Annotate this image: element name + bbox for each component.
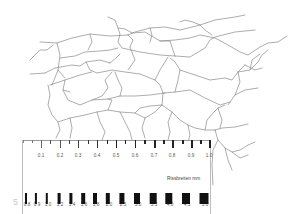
scale-label: 0.2 bbox=[57, 153, 63, 158]
tick-0.70 bbox=[154, 140, 156, 148]
crack-width-bar-1.8 bbox=[93, 193, 97, 204]
crack-width-bar-1.4 bbox=[69, 193, 72, 204]
scale-label: 0.7 bbox=[151, 153, 157, 158]
tick-0.90 bbox=[191, 140, 193, 148]
tick-0.05 bbox=[32, 140, 33, 143]
crack-width-bar-0.8 bbox=[25, 193, 27, 204]
tick-0.55 bbox=[125, 140, 126, 144]
tick-1.00 bbox=[209, 140, 211, 148]
scale-label: 0.1 bbox=[38, 153, 44, 158]
tick-0.15 bbox=[50, 140, 51, 144]
crack-width-bar-5.0 bbox=[200, 193, 209, 204]
crack-width-bar-2.0 bbox=[106, 193, 110, 204]
scale-label: 0.6 bbox=[132, 153, 138, 158]
page-number: 5 bbox=[13, 197, 18, 207]
scale-label: 0.5 bbox=[113, 153, 119, 158]
tick-0.75 bbox=[163, 140, 165, 144]
tick-0.40 bbox=[97, 140, 98, 148]
tick-0.10 bbox=[41, 140, 42, 148]
tick-0.50 bbox=[116, 140, 117, 148]
scale-label: 1.0 bbox=[206, 153, 212, 158]
scale-label: 0.9 bbox=[188, 153, 194, 158]
crack-width-caption: Rissbreiten mm bbox=[167, 176, 200, 181]
crack-width-bar-1.0 bbox=[46, 193, 48, 204]
crack-width-bar-1.6 bbox=[81, 193, 85, 204]
scale-label: 0.4 bbox=[94, 153, 100, 158]
tick-0.85 bbox=[182, 140, 184, 144]
tick-0.45 bbox=[107, 140, 108, 144]
tick-0.60 bbox=[135, 140, 136, 148]
scale-label: 0.8 bbox=[169, 153, 175, 158]
tick-0.35 bbox=[88, 140, 89, 144]
crack-width-bar-2.5 bbox=[119, 193, 124, 204]
crack-width-bar-1.2 bbox=[58, 193, 61, 204]
tick-0.25 bbox=[69, 140, 70, 144]
crack-width-bar-4.5 bbox=[182, 193, 190, 204]
crack-width-bar-4.0 bbox=[165, 193, 172, 204]
tick-0.30 bbox=[78, 140, 79, 148]
tick-0.95 bbox=[200, 140, 202, 144]
tick-0.65 bbox=[144, 140, 146, 144]
scale-label: 0.3 bbox=[75, 153, 81, 158]
tick-0.20 bbox=[60, 140, 61, 148]
crack-width-bar-3.5 bbox=[150, 193, 157, 204]
tick-0.80 bbox=[172, 140, 174, 148]
crack-width-bar-3.0 bbox=[134, 193, 140, 204]
crack-width-bar-0.9 bbox=[35, 193, 37, 204]
tick-0.00 bbox=[23, 140, 24, 143]
